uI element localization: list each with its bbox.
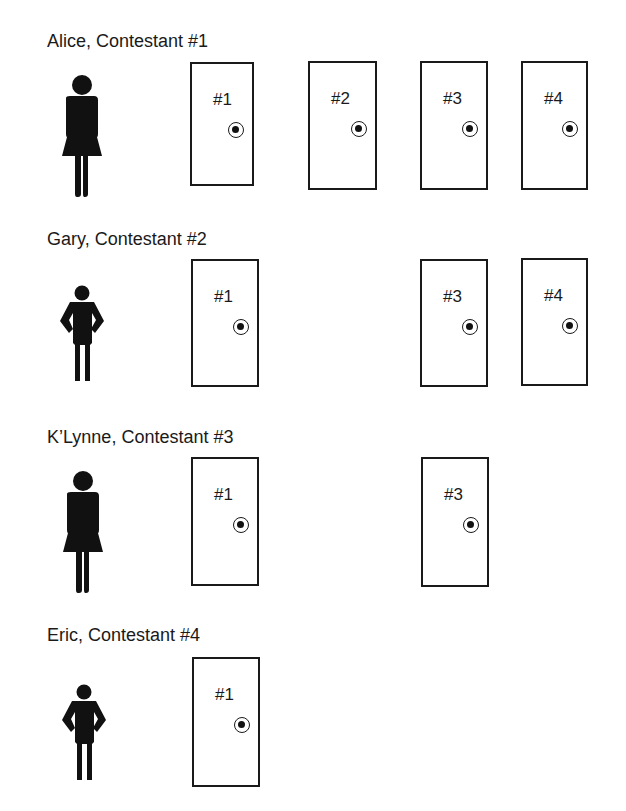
doorknob-icon xyxy=(233,517,249,533)
door-1[interactable]: #1 xyxy=(191,259,259,387)
door-number: #3 xyxy=(444,485,463,505)
door-number: #1 xyxy=(213,90,232,110)
doorknob-icon xyxy=(463,517,479,533)
doorknob-icon xyxy=(462,121,478,137)
door-number: #1 xyxy=(214,287,233,307)
doorknob-icon xyxy=(234,717,250,733)
door-3[interactable]: #3 xyxy=(420,259,488,387)
doorknob-icon xyxy=(462,319,478,335)
door-2[interactable]: #2 xyxy=(308,61,377,190)
man-icon xyxy=(58,283,106,383)
door-4[interactable]: #4 xyxy=(521,61,588,190)
door-number: #2 xyxy=(331,89,350,109)
woman-icon xyxy=(61,470,107,594)
man-icon xyxy=(60,682,108,782)
doorknob-icon xyxy=(562,121,578,137)
door-1[interactable]: #1 xyxy=(192,657,260,787)
door-4[interactable]: #4 xyxy=(521,258,588,386)
door-number: #4 xyxy=(544,286,563,306)
door-number: #1 xyxy=(214,485,233,505)
doorknob-icon xyxy=(233,319,249,335)
door-3[interactable]: #3 xyxy=(420,61,488,190)
doorknob-icon xyxy=(228,122,244,138)
door-1[interactable]: #1 xyxy=(190,62,254,186)
door-number: #3 xyxy=(443,89,462,109)
door-3[interactable]: #3 xyxy=(421,457,489,587)
door-number: #4 xyxy=(544,89,563,109)
contestant-label-alice: Alice, Contestant #1 xyxy=(47,31,208,52)
woman-icon xyxy=(60,74,106,198)
door-number: #1 xyxy=(215,685,234,705)
doorknob-icon xyxy=(351,121,367,137)
doorknob-icon xyxy=(562,318,578,334)
contestant-label-eric: Eric, Contestant #4 xyxy=(47,625,200,646)
door-number: #3 xyxy=(443,287,462,307)
door-1[interactable]: #1 xyxy=(191,457,259,586)
contestant-label-gary: Gary, Contestant #2 xyxy=(47,229,207,250)
contestant-label-klynne: K’Lynne, Contestant #3 xyxy=(47,427,233,448)
